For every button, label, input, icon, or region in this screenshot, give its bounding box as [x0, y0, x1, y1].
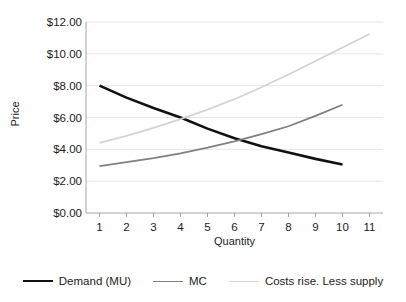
legend-item[interactable]: Demand (MU)	[23, 275, 131, 288]
x-tick-label: 9	[304, 221, 328, 233]
gridlines-group	[86, 22, 383, 181]
y-axis-title: Price	[9, 79, 21, 149]
legend-label: Costs rise. Less supply	[265, 275, 383, 288]
x-tick-label: 8	[277, 221, 301, 233]
legend-swatch-line-icon	[153, 281, 183, 282]
y-axis-tick-labels: $0.00$2.00$4.00$6.00$8.00$10.00$12.00	[0, 0, 82, 302]
chart-container: $0.00$2.00$4.00$6.00$8.00$10.00$12.00 12…	[0, 0, 406, 302]
x-tick-label: 6	[223, 221, 247, 233]
legend-swatch-line-icon	[23, 280, 53, 282]
x-tick-label: 3	[142, 221, 166, 233]
x-tick-label: 2	[115, 221, 139, 233]
series-line	[100, 86, 343, 165]
legend-item[interactable]: Costs rise. Less supply	[229, 275, 383, 288]
x-tick-label: 5	[196, 221, 220, 233]
x-tick-label: 7	[250, 221, 274, 233]
y-tick-label: $12.00	[6, 16, 82, 28]
x-tick-label: 4	[169, 221, 193, 233]
y-tick-label: $10.00	[6, 48, 82, 60]
x-tick-label: 10	[331, 221, 355, 233]
x-tick-label: 11	[358, 221, 382, 233]
x-tick-label: 1	[88, 221, 112, 233]
legend-item[interactable]: MC	[153, 275, 207, 288]
y-tick-label: $2.00	[6, 175, 82, 187]
legend-label: Demand (MU)	[59, 275, 131, 288]
chart-legend: Demand (MU)MCCosts rise. Less supply	[0, 268, 406, 294]
legend-swatch-line-icon	[229, 281, 259, 282]
y-tick-label: $0.00	[6, 207, 82, 219]
x-axis-title: Quantity	[86, 235, 383, 247]
series-line	[100, 34, 370, 143]
legend-label: MC	[189, 275, 207, 288]
x-tick-marks-group	[100, 213, 370, 217]
